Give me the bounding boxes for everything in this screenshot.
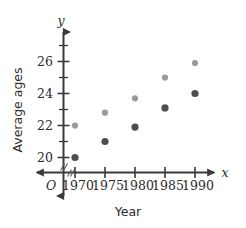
origin-label: O xyxy=(46,178,56,193)
y-tick-label-26: 26 xyxy=(37,54,53,69)
y-axis-variable-label: y xyxy=(56,13,65,28)
x-axis-title: Year xyxy=(114,204,142,219)
x-axis-variable-label: x xyxy=(221,165,228,180)
data-point xyxy=(72,122,78,128)
data-point xyxy=(162,74,168,80)
x-tick-labels: 1970 1975 1980 1985 1990 xyxy=(62,178,214,193)
x-tick-label-1970: 1970 xyxy=(62,178,94,193)
data-points-layer xyxy=(71,60,198,161)
x-tick-label-1985: 1985 xyxy=(152,178,184,193)
data-point xyxy=(101,138,108,145)
data-point xyxy=(191,90,198,97)
y-tick-label-20: 20 xyxy=(37,150,53,165)
data-point xyxy=(102,110,108,116)
chart-canvas: 26 24 22 20 1970 1975 1980 1985 1990 O y… xyxy=(0,0,246,228)
data-point xyxy=(131,124,138,131)
data-point xyxy=(71,154,78,161)
data-point xyxy=(192,60,198,66)
data-point xyxy=(132,95,138,101)
data-point xyxy=(161,104,168,111)
y-axis-title: Average ages xyxy=(10,67,25,152)
scatter-chart: 26 24 22 20 1970 1975 1980 1985 1990 O y… xyxy=(0,0,246,228)
y-tick-labels: 26 24 22 20 xyxy=(37,54,53,165)
y-tick-label-22: 22 xyxy=(37,118,53,133)
x-tick-label-1980: 1980 xyxy=(122,178,154,193)
y-tick-label-24: 24 xyxy=(37,86,53,101)
x-tick-label-1990: 1990 xyxy=(182,178,214,193)
x-tick-label-1975: 1975 xyxy=(92,178,124,193)
